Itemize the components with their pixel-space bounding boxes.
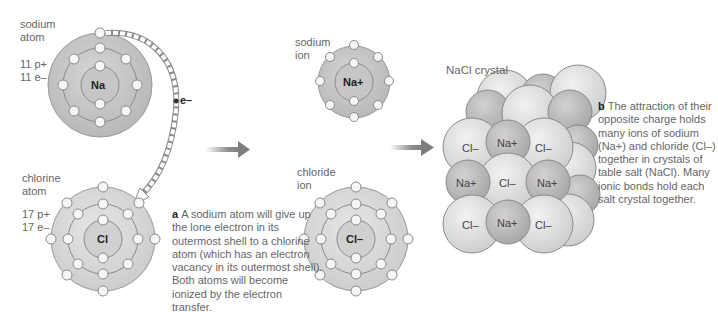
chlorine-atom-label-line1: chlorine [22, 172, 61, 185]
crystal-ion-label: Na+ [456, 177, 477, 190]
crystal-title: NaCl crystal [446, 64, 508, 77]
chlorine-atom-counts: 17 p+ 17 e– [22, 208, 50, 234]
sodium-atom-label-line1: sodium [20, 18, 55, 31]
chlorine-proton-count: 17 p+ [22, 208, 50, 221]
chloride-ion-symbol: Cl– [346, 233, 363, 246]
sodium-proton-count: 11 p+ [20, 58, 47, 71]
caption-b: bThe attraction of their opposite charge… [598, 100, 716, 206]
crystal-ion-label: Na+ [537, 177, 558, 190]
sodium-ion-label-line1: sodium [295, 36, 330, 49]
sodium-atom-counts: 11 p+ 11 e– [20, 58, 47, 84]
crystal-ion-label: Cl– [462, 142, 479, 155]
sodium-ion-label: sodium ion [295, 36, 330, 62]
sodium-atom-label: sodium atom [20, 18, 55, 44]
crystal-ion-label: Cl– [499, 177, 516, 190]
caption-a-text: A sodium atom will give up the lone elec… [172, 208, 322, 312]
transition-arrow-1 [205, 141, 250, 158]
crystal-ion-label: Na+ [497, 217, 518, 230]
crystal-ion-label: Na+ [497, 137, 518, 150]
transition-arrow-2 [390, 139, 434, 156]
chloride-ion-label-line1: chloride [297, 166, 336, 179]
sodium-atom-label-line2: atom [20, 31, 55, 44]
chlorine-electron-count: 17 e– [22, 221, 50, 234]
electron-label: e– [180, 94, 192, 107]
chloride-ion-label: chloride ion [297, 166, 336, 192]
sodium-ion-symbol: Na+ [343, 76, 364, 89]
crystal-ion-label: Cl– [535, 142, 552, 155]
chloride-ion-label-line2: ion [297, 179, 336, 192]
caption-b-letter: b [598, 100, 605, 112]
crystal-ion-label: Cl– [535, 219, 552, 232]
sodium-symbol: Na [91, 79, 105, 92]
caption-b-text: The attraction of their opposite charge … [598, 100, 716, 205]
transferred-electron-icon [174, 99, 179, 104]
sodium-electron-count: 11 e– [20, 71, 47, 84]
caption-a-letter: a [172, 208, 178, 220]
caption-a: aA sodium atom will give up the lone ele… [172, 208, 324, 312]
crystal-ion-label: Cl– [462, 219, 479, 232]
chlorine-atom-label: chlorine atom [22, 172, 61, 198]
chlorine-atom-label-line2: atom [22, 185, 61, 198]
sodium-ion-label-line2: ion [295, 49, 330, 62]
chlorine-symbol: Cl [97, 233, 108, 246]
